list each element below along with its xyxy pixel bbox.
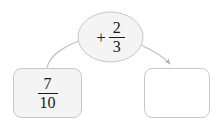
start-node-rect[interactable]: [14, 69, 82, 118]
operand-node-ellipse[interactable]: [78, 12, 143, 62]
diagram-svg: [0, 0, 218, 126]
result-node-rect[interactable]: [145, 69, 210, 118]
fraction-diagram-canvas: + 2 3 7 10: [0, 0, 218, 126]
edge-operand-to-result: [141, 45, 170, 64]
edge-start-to-operand: [47, 41, 79, 68]
